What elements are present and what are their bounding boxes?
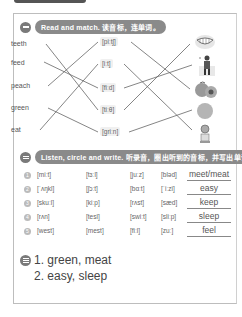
row-number: 3 — [24, 200, 31, 207]
phonetic-green: [ɡriːn] — [100, 127, 120, 136]
answer-blank: meet/meat — [187, 169, 231, 181]
phonetic-option: [mest] — [86, 227, 104, 234]
row-number: 4 — [24, 214, 31, 221]
word-feed: feed — [11, 59, 25, 66]
answer-blank: keep — [187, 197, 231, 209]
section2-title: Listen, circle and write. 听录音，圈出听到的音标，并写… — [35, 150, 242, 164]
listen-row: 2 [ˈʌŋkl] [ʃɔːt] [bɑːt] [ˈiːzi] easy — [24, 185, 234, 196]
phonetic-option: [sæd] — [161, 199, 177, 206]
listen-row: 1 [miːt] [tɜːl] [juːz] [bləd] meet/meat — [24, 171, 234, 182]
row-number: 5 — [24, 228, 31, 235]
word-teeth: teeth — [11, 40, 27, 47]
phonetic-eat: [iːt] — [100, 59, 113, 68]
phonetic-option: [west] — [37, 227, 54, 234]
answer-blank: sleep — [187, 211, 231, 223]
phonetic-option: [tɜːl] — [86, 171, 98, 178]
phonetic-teeth: [tiːθ] — [100, 105, 116, 114]
phonetic-option: [miːt] — [37, 171, 51, 178]
word-green: green — [11, 104, 29, 111]
listen-row: 3 [skuːl] [kiːp] [rʌst] [sæd] keep — [24, 199, 234, 210]
phonetic-option: [bləd] — [161, 171, 177, 178]
row-number: 1 — [24, 172, 31, 179]
worksheet-frame: Read and match. 读音标，连单词。 teeth feed peac… — [13, 13, 237, 304]
word-peach: peach — [11, 82, 30, 89]
phonetic-option: [fiːl] — [130, 227, 140, 234]
answer-blank: easy — [187, 183, 231, 195]
phonetic-option: [swiːt] — [130, 213, 147, 220]
phonetic-option: [zuː] — [161, 227, 173, 234]
phonetic-option: [tesl] — [86, 213, 100, 220]
green-ball-picture — [196, 102, 214, 120]
phonetic-option: [skuːl] — [37, 199, 54, 206]
word-eat: eat — [11, 126, 21, 133]
listen-row: 5 [west] [mest] [fiːl] [zuː] feel — [24, 227, 234, 238]
section3-number-icon — [20, 255, 31, 266]
grinning-teeth-picture — [194, 34, 216, 50]
phonetic-option: [ʃɔːt] — [86, 185, 98, 192]
person-feeding-picture — [198, 54, 216, 76]
listen-row: 4 [rʌn] [tesl] [swiːt] [sliːp] sleep — [24, 213, 234, 224]
peaches-picture — [194, 80, 218, 100]
phonetic-option: [ˈʌŋkl] — [37, 185, 54, 192]
phonetic-option: [juːz] — [130, 171, 144, 178]
phonetic-option: [bɑːt] — [130, 185, 144, 192]
top-bar-decoration — [14, 0, 86, 3]
answer-blank: feel — [187, 225, 231, 237]
row-number: 2 — [24, 186, 31, 193]
phonetic-option: [ˈiːzi] — [161, 185, 175, 192]
section2-number-icon — [20, 152, 31, 163]
answer-line-2: 2. easy, sleep — [34, 268, 111, 284]
child-eating-picture — [197, 124, 213, 144]
phonetic-option: [rʌn] — [37, 213, 50, 220]
phonetic-option: [sliːp] — [161, 213, 176, 220]
phonetic-option: [rʌst] — [130, 199, 144, 206]
phonetic-feed: [fiːd] — [100, 83, 116, 92]
phonetic-option: [kiːp] — [86, 199, 100, 206]
phonetic-peach: [piːtʃ] — [100, 37, 118, 46]
section2-header: Listen, circle and write. 听录音，圈出听到的音标，并写… — [20, 150, 242, 164]
answer-line-1: 1. green, meat — [34, 252, 111, 268]
